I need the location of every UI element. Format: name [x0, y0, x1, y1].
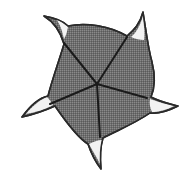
pinwheel-diagram	[0, 0, 194, 187]
center-point	[96, 83, 99, 86]
